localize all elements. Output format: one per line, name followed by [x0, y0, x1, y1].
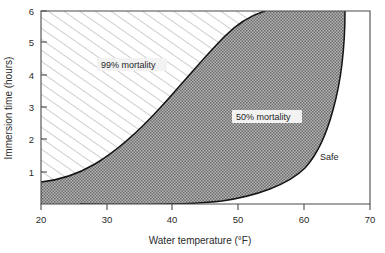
x-axis-tick-labels: 20 30 40 50 60 70	[36, 214, 376, 225]
y-axis-tick-labels: 6 5 4 3 2 1	[29, 6, 34, 178]
x-tick-label-40: 40	[167, 214, 178, 225]
annotation-99-mortality-label: 99% mortality	[101, 60, 156, 70]
x-tick-label-20: 20	[36, 214, 47, 225]
x-axis-title: Water temperature (°F)	[149, 235, 252, 246]
y-tick-label-5: 5	[29, 37, 34, 48]
x-tick-label-70: 70	[365, 214, 376, 225]
x-tick-label-60: 60	[299, 214, 310, 225]
x-tick-label-30: 30	[102, 214, 113, 225]
y-tick-label-2: 2	[29, 134, 34, 145]
y-tick-label-3: 3	[29, 102, 34, 113]
y-axis-title: Immersion time (hours)	[3, 57, 14, 160]
survival-time-chart: 6 5 4 3 2 1 20 30 40 50 60 70 Water temp…	[0, 0, 385, 253]
annotation-safe-label: Safe	[320, 152, 339, 162]
y-tick-label-1: 1	[29, 167, 34, 178]
annotation-50-mortality: 50% mortality	[232, 110, 302, 123]
annotation-99-mortality: 99% mortality	[97, 58, 167, 71]
chart-svg: 6 5 4 3 2 1 20 30 40 50 60 70 Water temp…	[0, 0, 385, 253]
y-tick-label-4: 4	[29, 70, 34, 81]
annotation-50-mortality-label: 50% mortality	[236, 112, 291, 122]
x-tick-label-50: 50	[233, 214, 244, 225]
y-tick-label-6: 6	[29, 6, 34, 17]
x-axis-ticks	[41, 204, 370, 210]
